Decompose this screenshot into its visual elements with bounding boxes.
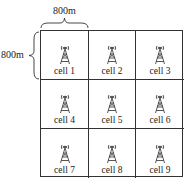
grid-cell: cell 8 [89,129,136,178]
grid-cell: cell 1 [41,31,89,80]
cell-label: cell 7 [54,165,75,176]
grid-cell: cell 4 [41,80,89,129]
grid-cell: cell 6 [136,80,184,129]
cell-tower-icon [58,92,72,114]
height-dimension-label: 800m [1,49,24,60]
grid-cell: cell 9 [136,129,184,178]
width-dimension-label: 800m [40,5,89,16]
cell-tower-icon [58,142,72,164]
cell-grid: cell 1 cell 2 cell 3 cell 4 cell 5 cell … [40,30,183,177]
cell-label: cell 4 [54,115,75,126]
grid-cell: cell 3 [136,31,184,80]
cell-tower-icon [105,92,119,114]
cell-label: cell 6 [150,115,171,126]
height-brace-icon [28,31,40,80]
width-brace-icon [40,17,89,29]
cell-tower-icon [105,142,119,164]
cell-tower-icon [153,43,167,65]
grid-cell: cell 2 [89,31,136,80]
cell-tower-icon [105,43,119,65]
cell-tower-icon [153,142,167,164]
cell-label: cell 8 [102,165,123,176]
cell-tower-icon [153,92,167,114]
cell-label: cell 5 [102,115,123,126]
grid-cell: cell 5 [89,80,136,129]
cell-tower-icon [58,43,72,65]
cell-label: cell 9 [150,165,171,176]
cell-label: cell 3 [150,66,171,77]
cell-label: cell 2 [102,66,123,77]
cell-label: cell 1 [54,66,75,77]
grid-cell: cell 7 [41,129,89,178]
